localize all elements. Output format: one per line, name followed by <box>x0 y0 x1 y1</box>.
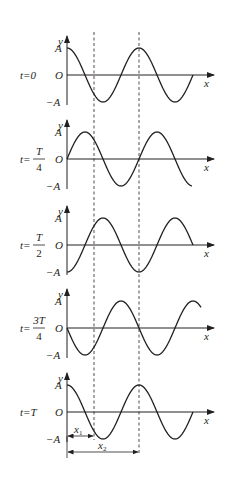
time-label: t=T4 <box>20 145 45 173</box>
svg-text:t=: t= <box>20 153 30 165</box>
panel-3: yAO−Axt=3T4 <box>20 288 214 361</box>
amplitude-label: A <box>54 126 62 138</box>
time-label: t=T2 <box>20 231 45 259</box>
amplitude-label: A <box>54 295 62 307</box>
svg-text:t=: t= <box>20 239 30 251</box>
time-label: t=T <box>20 406 37 418</box>
svg-text:x1: x1 <box>73 423 83 437</box>
neg-amplitude-label: −A <box>46 266 60 278</box>
svg-text:t=0: t=0 <box>20 69 36 81</box>
neg-amplitude-label: −A <box>46 349 60 361</box>
x-axis-label: x <box>203 77 209 89</box>
amplitude-label: A <box>54 42 62 54</box>
origin-label: O <box>55 406 63 418</box>
svg-text:2: 2 <box>36 247 42 259</box>
x-axis-label: x <box>203 161 209 173</box>
svg-text:t=T: t=T <box>20 406 37 418</box>
svg-text:4: 4 <box>36 330 42 342</box>
amplitude-label: A <box>54 379 62 391</box>
panel-4: yAO−Axt=T <box>20 372 214 445</box>
x-axis-label: x <box>203 414 209 426</box>
panel-0: yAO−Axt=0 <box>20 35 214 108</box>
time-label: t=3T4 <box>20 314 46 342</box>
origin-label: O <box>55 69 63 81</box>
panel-1: yAO−Axt=T4 <box>20 119 214 192</box>
amplitude-label: A <box>54 212 62 224</box>
svg-text:T: T <box>36 231 43 243</box>
origin-label: O <box>55 322 63 334</box>
x-axis-label: x <box>203 247 209 259</box>
wave-diagram: yAO−Axt=0yAO−Axt=T4yAO−Axt=T2yAO−Axt=3T4… <box>0 0 226 478</box>
svg-text:x2: x2 <box>97 439 107 453</box>
origin-label: O <box>55 153 63 165</box>
svg-text:3T: 3T <box>32 314 46 326</box>
time-label: t=0 <box>20 69 36 81</box>
panel-2: yAO−Axt=T2 <box>20 205 214 278</box>
neg-amplitude-label: −A <box>46 96 60 108</box>
origin-label: O <box>55 239 63 251</box>
svg-text:t=: t= <box>20 322 30 334</box>
svg-text:T: T <box>36 145 43 157</box>
dimension-x1: x1 <box>68 423 93 437</box>
x-axis-label: x <box>203 330 209 342</box>
neg-amplitude-label: −A <box>46 180 60 192</box>
dimension-x2: x2 <box>67 436 138 458</box>
svg-text:4: 4 <box>36 161 42 173</box>
neg-amplitude-label: −A <box>46 433 60 445</box>
